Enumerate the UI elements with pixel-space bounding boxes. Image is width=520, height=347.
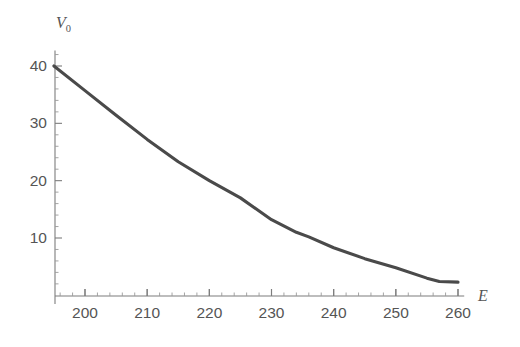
- ticks-group: [55, 55, 458, 296]
- y-tick-label: 40: [11, 57, 47, 75]
- x-tick-label: 220: [184, 304, 234, 322]
- x-tick-label: 200: [60, 304, 110, 322]
- x-tick-label: 250: [371, 304, 421, 322]
- x-tick-label: 240: [309, 304, 359, 322]
- y-tick-label: 10: [11, 229, 47, 247]
- axes-group: [55, 51, 464, 304]
- x-tick-label: 210: [122, 304, 172, 322]
- y-axis-title-subscript: 0: [66, 23, 71, 34]
- x-tick-label: 230: [247, 304, 297, 322]
- data-line-0: [54, 66, 458, 282]
- y-tick-label: 20: [11, 172, 47, 190]
- data-series-group: [54, 66, 458, 282]
- y-axis-title-text: V: [56, 14, 66, 31]
- x-tick-label: 260: [433, 304, 483, 322]
- plot-area: [0, 0, 520, 347]
- chart-figure: 10203040 200210220230240250260 V0 E: [0, 0, 520, 347]
- y-axis-title: V0: [56, 14, 71, 34]
- y-tick-label: 30: [11, 114, 47, 132]
- x-axis-title: E: [478, 287, 488, 305]
